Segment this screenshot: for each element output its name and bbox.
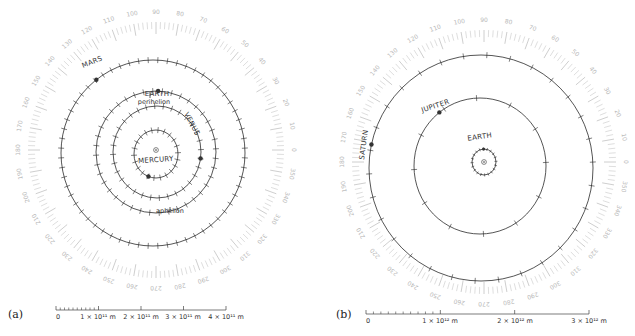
degree-tick [414, 50, 418, 56]
orbit-tick [129, 113, 133, 118]
degree-tick [568, 255, 573, 260]
planet-marker [482, 147, 485, 150]
degree-tick [403, 261, 407, 267]
degree-tick [602, 183, 614, 185]
degree-tick [81, 46, 85, 52]
degree-tick [273, 179, 280, 181]
degree-label: 140 [43, 54, 56, 67]
degree-label: 300 [219, 264, 233, 276]
degree-tick [209, 35, 212, 41]
orbit-tick [73, 202, 78, 205]
orbit-tick [107, 189, 112, 193]
degree-label: 200 [344, 204, 355, 217]
degree-tick [31, 123, 38, 124]
scale-label: 1 × 10¹² m [422, 317, 458, 325]
orbit-tick [222, 210, 227, 214]
degree-tick [603, 201, 610, 203]
orbit-tick [79, 210, 84, 214]
scale-label: 4 × 10¹¹ m [208, 313, 244, 321]
degree-tick [112, 259, 116, 270]
degree-tick [461, 32, 463, 44]
degree-tick [392, 67, 397, 72]
degree-tick [259, 214, 265, 218]
degree-tick [363, 108, 369, 111]
sun-center [483, 161, 485, 163]
orbit-tick [178, 110, 181, 115]
degree-label: 220 [43, 232, 56, 245]
degree-label: 340 [281, 191, 292, 204]
degree-tick [45, 86, 55, 92]
degree-tick [227, 46, 231, 52]
degree-tick [272, 183, 279, 185]
orbit-tick [172, 164, 177, 167]
degree-tick [193, 28, 195, 35]
orbit-tick [187, 98, 190, 103]
degree-tick [525, 38, 529, 49]
orbit-tick [204, 184, 209, 187]
degree-tick [539, 274, 542, 280]
scale-label: 3 × 10¹² m [571, 317, 607, 325]
degree-label: 320 [256, 233, 269, 246]
scale-label: 2 × 10¹² m [497, 317, 533, 325]
orbit-tick [101, 228, 104, 233]
degree-tick [396, 64, 401, 69]
degree-tick [375, 88, 381, 92]
orbit-tick [213, 158, 219, 159]
degree-tick [213, 37, 216, 43]
degree-tick [365, 217, 371, 220]
degree-tick [134, 24, 136, 36]
degree-tick [121, 27, 123, 34]
degree-tick [353, 175, 360, 176]
degree-tick [505, 280, 507, 292]
orbit-tick [578, 115, 583, 118]
degree-tick [67, 237, 72, 242]
degree-label: 350 [288, 168, 297, 181]
degree-label: 130 [386, 46, 399, 59]
degree-tick [67, 58, 72, 63]
degree-tick [143, 23, 144, 30]
degree-tick [604, 126, 611, 128]
orbit-tick [133, 189, 136, 194]
degree-tick [256, 78, 262, 82]
degree-tick [457, 33, 458, 40]
orbit-tick [158, 127, 159, 133]
degree-tick [181, 25, 182, 32]
degree-tick [597, 203, 608, 207]
orbit-tick [193, 67, 196, 72]
scale-label: 3 × 10¹¹ m [165, 313, 201, 321]
degree-tick [276, 137, 283, 138]
degree-label: 0 [291, 148, 298, 152]
degree-label: 70 [528, 23, 538, 32]
degree-label: 170 [339, 131, 348, 144]
degree-tick [355, 188, 362, 189]
degree-tick [571, 67, 576, 72]
degree-tick [362, 209, 368, 212]
degree-tick [240, 58, 245, 63]
degree-tick [116, 28, 118, 35]
degree-tick [209, 259, 212, 265]
degree-tick [418, 48, 424, 58]
degree-tick [386, 246, 391, 251]
degree-tick [29, 137, 36, 138]
degree-tick [88, 253, 92, 259]
degree-tick [100, 35, 103, 41]
degree-label: 210 [30, 213, 42, 227]
degree-tick [92, 39, 98, 49]
degree-tick [439, 38, 443, 49]
degree-label: 50 [240, 38, 250, 48]
degree-tick [443, 281, 445, 288]
degree-tick [588, 96, 598, 102]
degree-tick [426, 43, 429, 49]
degree-tick [363, 213, 369, 216]
degree-tick [590, 92, 596, 96]
degree-tick [557, 263, 561, 269]
degree-tick [357, 126, 364, 128]
panel-label: (a) [8, 308, 23, 321]
degree-tick [583, 81, 589, 85]
degree-label: 60 [550, 33, 560, 43]
degree-tick [554, 266, 558, 272]
orbit-tick [429, 266, 432, 271]
planet-label: JUPITER [419, 98, 450, 115]
scale-label: 2 × 10¹¹ m [123, 313, 159, 321]
degree-tick [29, 132, 36, 133]
